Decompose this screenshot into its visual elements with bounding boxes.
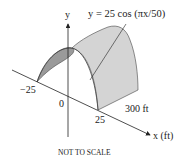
tick-label-zero: 0 bbox=[59, 98, 64, 109]
footnote: NOT TO SCALE bbox=[58, 148, 111, 157]
tick-label-neg25: −25 bbox=[20, 84, 36, 95]
length-label: 300 ft bbox=[125, 103, 149, 114]
arch-surface bbox=[72, 26, 138, 110]
arch-diagram: y = 25 cos (πx/50) y −25 0 25 300 ft x (… bbox=[0, 0, 189, 162]
x-axis-label: x (ft) bbox=[153, 130, 173, 142]
y-axis-label: y bbox=[65, 9, 70, 20]
tick-label-25: 25 bbox=[95, 114, 105, 125]
equation-label: y = 25 cos (πx/50) bbox=[88, 8, 166, 20]
